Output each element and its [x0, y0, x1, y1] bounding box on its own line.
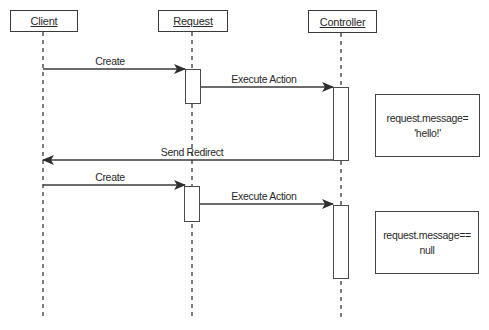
participant-request: Request [158, 10, 228, 32]
create-label-2: Create [95, 171, 125, 183]
participant-client-label: Client [31, 15, 58, 27]
participant-controller: Controller [308, 10, 377, 33]
request-activation-1 [185, 69, 201, 104]
participant-request-label: Request [173, 15, 213, 27]
execute-action-label-2: Execute Action [231, 190, 296, 202]
controller-activation-1 [333, 87, 349, 161]
participant-client: Client [10, 10, 78, 32]
diagram-lines [0, 0, 489, 330]
note-2-line-2: null [419, 243, 434, 258]
participant-controller-label: Controller [320, 16, 366, 28]
execute-action-label-1: Execute Action [231, 73, 296, 85]
note-message-null: request.message== null [375, 211, 479, 274]
send-redirect-label: Send Redirect [161, 146, 224, 158]
controller-activation-2 [333, 205, 349, 279]
request-activation-2 [184, 186, 200, 222]
create-label-1: Create [95, 55, 125, 67]
note-message-hello: request.message= 'hello!' [375, 94, 480, 157]
note-2-line-1: request.message== [383, 228, 471, 243]
note-1-line-2: 'hello!' [414, 126, 441, 141]
note-1-line-1: request.message= [387, 111, 469, 126]
